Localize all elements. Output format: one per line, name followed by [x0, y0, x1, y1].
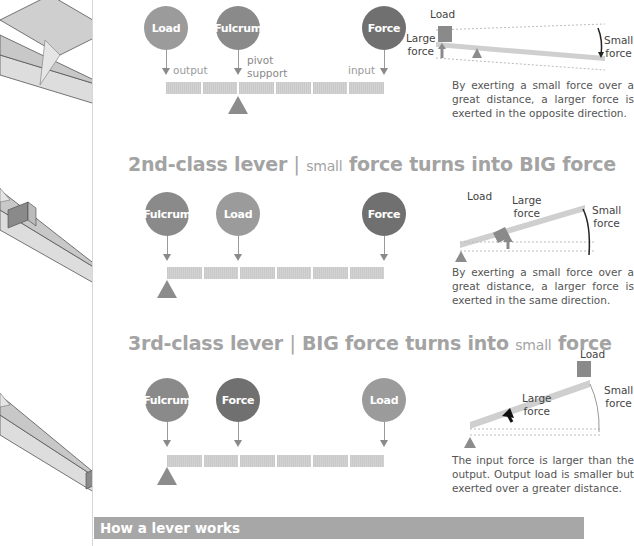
section-header: How a lever works [94, 517, 584, 539]
isometric-lever-illustration-1 [0, 0, 92, 140]
down-arrow-icon [234, 440, 242, 447]
fulcrum-triangle [228, 96, 248, 114]
lever-beam [167, 455, 384, 467]
second-class-title: 2nd-class lever | small force turns into… [128, 153, 616, 175]
fulcrum-arrow-stem [238, 50, 239, 70]
mini-load-label: Load [430, 8, 455, 21]
third-class-description: The input force is larger than the outpu… [452, 453, 634, 495]
load-arrow-stem [238, 236, 239, 256]
load-box [577, 361, 591, 377]
load-circle: Load [144, 6, 188, 50]
support-text: support [247, 67, 287, 79]
mini-fulcrum [464, 437, 476, 448]
down-arrow-icon [163, 440, 171, 447]
down-arrow-icon [380, 440, 388, 447]
pivot-text: pivot [247, 54, 273, 66]
lever-beam [166, 82, 384, 94]
title-sep: | [289, 332, 295, 354]
title-main: 3rd-class lever [128, 332, 283, 354]
output-label: output [173, 64, 208, 76]
mini-load-label: Load [580, 348, 605, 361]
first-class-description: By exerting a small force over a great d… [452, 78, 634, 120]
pivot-label: pivotsupport [247, 54, 287, 80]
mini-load-label: Load [467, 190, 492, 203]
force-arrow-stem [384, 236, 385, 256]
title-mid: force turns into [349, 153, 513, 175]
load-box [438, 26, 452, 42]
force-circle: Force [216, 378, 260, 422]
mini-large-force-label: Large force [522, 392, 552, 418]
down-arrow-icon [162, 68, 170, 75]
isometric-lever-illustration-3 [0, 385, 92, 525]
fulcrum-circle: Fulcrum [145, 378, 189, 422]
fulcrum-circle: Fulcrum [145, 192, 189, 236]
load-arrow-stem [384, 422, 385, 442]
title-end: force [562, 153, 616, 175]
mini-small-force-label: Small force [604, 384, 633, 410]
third-class-title: 3rd-class lever | BIG force turns into s… [128, 332, 612, 354]
force-arrow-stem [384, 50, 385, 70]
mini-small-force-label: Small force [592, 204, 621, 230]
fulcrum-triangle [157, 280, 177, 298]
title-big: BIG [302, 332, 339, 354]
down-arrow-icon [234, 68, 242, 75]
fulcrum-arrow-stem [167, 422, 168, 442]
title-main: 2nd-class lever [128, 153, 287, 175]
force-arrow-stem [238, 422, 239, 442]
fulcrum-circle: Fulcrum [216, 6, 260, 50]
isometric-lever-illustration-2 [0, 180, 92, 320]
title-small: small [515, 337, 551, 353]
title-small: small [306, 158, 342, 174]
load-circle: Load [362, 378, 406, 422]
down-arrow-icon [234, 254, 242, 261]
down-arrow-icon [380, 68, 388, 75]
title-mid: force turns into [345, 332, 509, 354]
second-class-description: By exerting a small force over a great d… [452, 265, 634, 307]
load-arrow-stem [166, 50, 167, 70]
input-label: input [348, 64, 375, 76]
fulcrum-triangle [157, 467, 177, 485]
column-divider [92, 0, 93, 546]
load-circle: Load [216, 192, 260, 236]
force-circle: Force [362, 192, 406, 236]
mini-fulcrum [455, 251, 467, 262]
mini-large-force-label: Large force [512, 194, 542, 220]
lever-beam [167, 267, 384, 279]
fulcrum-arrow-stem [167, 236, 168, 256]
down-arrow-icon [163, 254, 171, 261]
title-sep: | [294, 153, 300, 175]
mini-small-force-label: Small force [604, 34, 633, 60]
down-arrow-icon [380, 254, 388, 261]
force-circle: Force [362, 6, 406, 50]
title-big: BIG [519, 153, 556, 175]
mini-large-force-label: Large force [406, 32, 436, 58]
